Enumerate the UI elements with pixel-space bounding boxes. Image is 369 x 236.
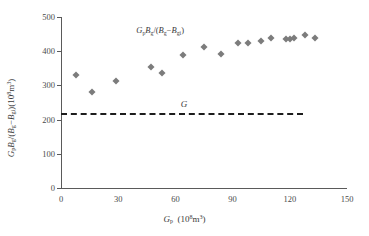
x-title-units-m: m [193,214,200,224]
y-title-var-bg2: B [6,128,16,134]
y-title-var-bgi: B [6,115,16,121]
x-tick-label: 60 [171,195,180,204]
y-axis-line [61,17,62,189]
y-tick-label: 500 [42,13,55,22]
y-tick-mark [57,17,61,18]
data-point-marker [73,72,80,79]
y-tick-label: 0 [51,184,55,193]
x-title-units-open: (10 [177,214,189,224]
data-point-marker [113,77,120,84]
y-tick-mark [57,51,61,52]
y-axis-title: GpBg/(Bg−Bgi)(108m3) [3,0,15,236]
data-point-marker [244,39,251,46]
data-point-marker [267,35,274,42]
data-point-marker [159,69,166,76]
y-title-exp2: 3 [6,82,12,85]
data-point-marker [218,50,225,57]
y-tick-mark [57,154,61,155]
y-tick-label: 300 [42,81,55,90]
y-title-exp: 8 [6,92,12,95]
plot-area: 0100200300400500 0306090120150 G GpBg/(B… [61,17,347,189]
y-title-units-close: ) [6,79,16,82]
y-tick-label: 400 [42,47,55,56]
reference-line-label-g: G [181,100,188,109]
y-title-sub-p: p [10,148,16,151]
y-title-sub-g2: g [10,125,16,128]
data-point-marker [147,64,154,71]
data-point-marker [311,34,318,41]
y-tick-mark [57,85,61,86]
chart-figure: 0100200300400500 0306090120150 G GpBg/(B… [0,0,369,236]
data-point-marker [200,44,207,51]
x-tick-label: 150 [341,195,354,204]
x-tick-label: 0 [59,195,63,204]
data-point-marker [258,37,265,44]
y-title-close-paren: ) [6,107,16,110]
y-title-var-gp: G [6,151,16,158]
data-point-marker [235,40,242,47]
annotation-close-paren: ) [181,26,184,36]
series-annotation: GpBg/(Bg−Bgi) [136,27,184,38]
y-tick-mark [57,188,61,189]
data-point-marker [302,31,309,38]
data-point-marker [179,51,186,58]
x-axis-line [61,188,347,189]
y-title-var-bg: B [6,142,16,148]
y-title-slash: /( [6,134,16,140]
x-tick-label: 90 [228,195,237,204]
reference-line-g [61,113,303,115]
data-point-marker [88,88,95,95]
y-tick-label: 100 [42,150,55,159]
y-tick-mark [57,120,61,121]
x-tick-label: 120 [283,195,296,204]
x-axis-title: Gp (108m3) [0,212,369,226]
y-tick-label: 200 [42,115,55,124]
y-title-sub-g: g [10,139,16,142]
y-title-minus: − [6,120,16,125]
x-title-units-tail: ) [203,214,206,224]
x-title-sub: p [170,218,173,224]
y-title-units-open: (10 [6,95,16,107]
y-title-sub-gi: gi [10,110,16,115]
y-title-units-m: m [6,85,16,92]
x-tick-label: 30 [114,195,123,204]
